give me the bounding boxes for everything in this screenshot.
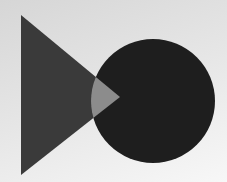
shapes-drawing [0, 0, 227, 182]
canvas [0, 0, 227, 182]
